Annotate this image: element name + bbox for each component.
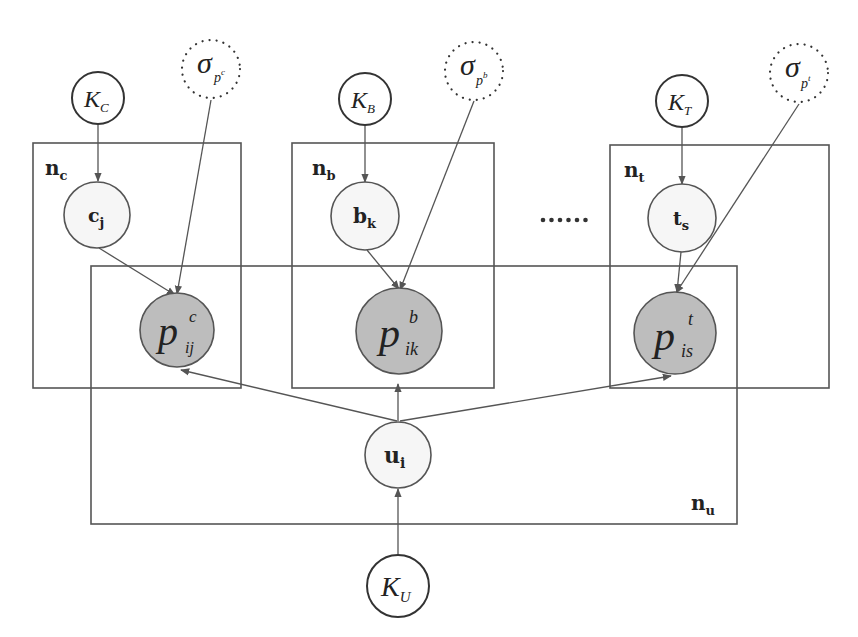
svg-text:σ: σ [197, 46, 213, 79]
edge-cj-pc [99, 248, 175, 295]
edge-ui-pc [181, 370, 397, 421]
edge-bk-pb [367, 250, 399, 289]
svg-text:c: c [189, 307, 197, 326]
svg-text:p: p [651, 313, 675, 359]
svg-text:ik: ik [405, 339, 419, 359]
svg-text:p: p [376, 310, 400, 356]
node-cj: cj [64, 182, 130, 248]
svg-text:σ: σ [785, 50, 801, 83]
svg-text:b: b [409, 307, 418, 327]
plate-label-nu: nu [691, 491, 715, 518]
node-p-b: p b ik [356, 288, 442, 374]
edge-sigpb-pb [400, 101, 474, 290]
node-p-t: p t is [634, 292, 716, 374]
node-kb: KB [339, 73, 391, 125]
edge-ui-pt [400, 376, 671, 421]
edge-sigpc-pc [177, 100, 211, 294]
node-p-c: p c ij [140, 293, 214, 367]
node-bk: bk [331, 182, 399, 250]
node-kc: KC [72, 72, 124, 124]
plate-label-nb: nb [312, 156, 336, 183]
node-ui: ui [365, 422, 431, 488]
node-sigma-pb: σ pb [445, 42, 503, 100]
node-ts: ts [648, 184, 716, 252]
node-sigma-pc: σ pc [182, 40, 240, 98]
plate-label-nc: nc [45, 156, 68, 183]
svg-text:σ: σ [460, 48, 476, 81]
plate-label-nt: nt [624, 158, 645, 185]
svg-text:p: p [155, 309, 178, 354]
node-ku: KU [367, 555, 429, 617]
graphical-model-diagram: nc nb nt nu KC KB KT KU σ pc [0, 0, 858, 637]
node-kt: KT [656, 75, 708, 127]
node-sigma-pt: σ pt [770, 44, 828, 102]
svg-text:is: is [681, 341, 693, 361]
svg-text:ij: ij [185, 339, 194, 357]
ellipsis-dots [541, 218, 588, 223]
